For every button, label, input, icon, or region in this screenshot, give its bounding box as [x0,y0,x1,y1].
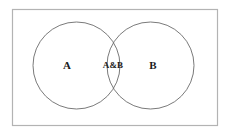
intersection-label: A&B [103,60,124,70]
venn-diagram-svg: A A&B B [0,0,233,135]
set-a-label: A [63,59,71,71]
set-b-label: B [149,59,157,71]
venn-diagram-figure: A A&B B [0,0,233,135]
